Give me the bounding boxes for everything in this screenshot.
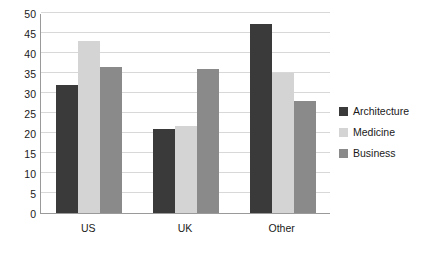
legend-label: Medicine	[353, 127, 395, 138]
legend-swatch-icon	[339, 149, 348, 158]
bar-us-medicine	[78, 41, 100, 213]
gridline	[41, 12, 330, 13]
legend-swatch-icon	[339, 128, 348, 137]
chart-legend: ArchitectureMedicineBusiness	[339, 103, 425, 166]
bar-group-other	[250, 14, 316, 213]
y-axis-tick-label: 30	[2, 89, 36, 100]
y-axis-tick-label: 0	[2, 209, 36, 220]
y-axis-tick-label: 35	[2, 69, 36, 80]
bar-other-architecture	[250, 24, 272, 213]
legend-label: Business	[353, 148, 396, 159]
y-axis-tick-label: 40	[2, 49, 36, 60]
bar-uk-architecture	[153, 129, 175, 213]
y-axis: 05101520253035404550	[0, 14, 36, 214]
y-axis-tick-label: 20	[2, 129, 36, 140]
x-axis-tick-label: Other	[269, 222, 295, 234]
bar-us-architecture	[56, 85, 78, 213]
bar-group-uk	[153, 14, 219, 213]
x-axis-tick-label: UK	[178, 222, 193, 234]
y-axis-tick-label: 50	[2, 9, 36, 20]
bar-other-medicine	[272, 73, 294, 213]
bar-uk-business	[197, 69, 219, 213]
legend-swatch-icon	[339, 107, 348, 116]
y-axis-tick-label: 15	[2, 149, 36, 160]
legend-label: Architecture	[353, 106, 409, 117]
y-axis-tick-label: 25	[2, 109, 36, 120]
bar-group-us	[56, 14, 122, 213]
bar-chart: 05101520253035404550 USUKOther Architect…	[0, 0, 425, 255]
bar-uk-medicine	[175, 126, 197, 213]
legend-item-medicine[interactable]: Medicine	[339, 124, 425, 141]
y-axis-tick-label: 10	[2, 169, 36, 180]
legend-item-business[interactable]: Business	[339, 145, 425, 162]
bar-other-business	[294, 101, 316, 213]
y-axis-tick-label: 5	[2, 189, 36, 200]
plot-area	[40, 14, 330, 214]
bar-us-business	[100, 67, 122, 213]
legend-item-architecture[interactable]: Architecture	[339, 103, 425, 120]
y-axis-tick-label: 45	[2, 29, 36, 40]
x-axis-tick-label: US	[81, 222, 96, 234]
bars-layer	[41, 14, 330, 213]
x-axis: USUKOther	[40, 216, 330, 238]
